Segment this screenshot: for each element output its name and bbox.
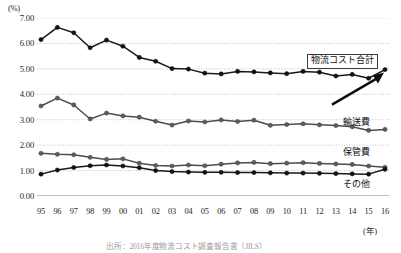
- data-point: [88, 155, 92, 159]
- data-point: [170, 123, 174, 127]
- data-point: [350, 172, 354, 176]
- data-point: [383, 68, 387, 72]
- y-tick-label: 7.00: [2, 13, 34, 23]
- data-point: [235, 171, 239, 175]
- data-point: [203, 170, 207, 174]
- data-point: [154, 163, 158, 167]
- data-point: [55, 152, 59, 156]
- data-point: [285, 122, 289, 126]
- x-tick-label: 10: [283, 207, 291, 216]
- data-point: [170, 169, 174, 173]
- data-point: [104, 157, 108, 161]
- data-point: [72, 165, 76, 169]
- x-tick-label: 03: [168, 207, 176, 216]
- x-tick-label: 07: [234, 207, 242, 216]
- data-point: [317, 70, 321, 74]
- y-tick-label: 1.00: [2, 166, 34, 176]
- x-tick-label: 06: [217, 207, 225, 216]
- x-tick-label: 02: [152, 207, 160, 216]
- data-point: [383, 127, 387, 131]
- data-point: [367, 164, 371, 168]
- data-point: [334, 123, 338, 127]
- data-point: [383, 167, 387, 171]
- x-tick-label: 00: [119, 207, 127, 216]
- x-tick-label: 96: [53, 207, 61, 216]
- data-point: [317, 161, 321, 165]
- data-point: [186, 67, 190, 71]
- data-point: [121, 164, 125, 168]
- y-tick-label: 2.00: [2, 140, 34, 150]
- x-axis-tick-labels: 9596979899000102030405060708091011121314…: [37, 207, 389, 221]
- data-point: [186, 170, 190, 174]
- series-line-0: [41, 27, 385, 78]
- x-tick-label: 16: [381, 207, 389, 216]
- data-point: [268, 71, 272, 75]
- data-point: [137, 55, 141, 59]
- data-point: [285, 72, 289, 76]
- data-point: [219, 162, 223, 166]
- data-point: [252, 118, 256, 122]
- logistics-cost-chart: (%) 0.001.002.003.004.005.006.007.00 959…: [0, 0, 401, 253]
- data-point: [301, 122, 305, 126]
- data-point: [170, 164, 174, 168]
- data-point: [121, 157, 125, 161]
- x-tick-label: 97: [70, 207, 78, 216]
- data-point: [235, 161, 239, 165]
- data-point: [137, 166, 141, 170]
- y-tick-label: 4.00: [2, 89, 34, 99]
- data-point: [334, 162, 338, 166]
- series-label-total: 物流コスト合計: [307, 54, 378, 69]
- data-point: [154, 59, 158, 63]
- data-point: [235, 69, 239, 73]
- data-point: [39, 38, 43, 42]
- x-tick-label: 04: [184, 207, 192, 216]
- data-point: [170, 67, 174, 71]
- data-point: [252, 160, 256, 164]
- x-tick-label: 12: [315, 207, 323, 216]
- plot-area: [37, 18, 389, 196]
- data-point: [104, 38, 108, 42]
- data-point: [219, 170, 223, 174]
- data-point: [104, 163, 108, 167]
- data-point: [137, 115, 141, 119]
- plot-svg: [37, 18, 389, 196]
- data-point: [72, 153, 76, 157]
- data-point: [154, 119, 158, 123]
- x-tick-label: 98: [86, 207, 94, 216]
- x-tick-label: 14: [348, 207, 356, 216]
- data-point: [39, 172, 43, 176]
- data-point: [367, 172, 371, 176]
- data-point: [301, 69, 305, 73]
- data-point: [72, 31, 76, 35]
- data-point: [268, 162, 272, 166]
- data-point: [39, 151, 43, 155]
- data-point: [203, 164, 207, 168]
- x-tick-label: 08: [250, 207, 258, 216]
- x-tick-label: 09: [266, 207, 274, 216]
- data-point: [367, 128, 371, 132]
- x-tick-label: 99: [103, 207, 111, 216]
- source-caption: 出所：2016年度物流コスト調査報告書（JILS）: [106, 240, 267, 251]
- data-point: [334, 172, 338, 176]
- data-point: [252, 70, 256, 74]
- x-tick-label: 11: [299, 207, 307, 216]
- data-point: [301, 161, 305, 165]
- data-point: [268, 123, 272, 127]
- x-tick-label: 05: [201, 207, 209, 216]
- data-point: [55, 25, 59, 29]
- data-point: [268, 171, 272, 175]
- y-axis-unit-label: (%): [8, 3, 20, 13]
- data-point: [88, 117, 92, 121]
- data-point: [88, 46, 92, 50]
- data-point: [203, 120, 207, 124]
- x-tick-label: 13: [332, 207, 340, 216]
- x-tick-label: 15: [365, 207, 373, 216]
- data-point: [203, 71, 207, 75]
- data-point: [285, 161, 289, 165]
- data-point: [235, 119, 239, 123]
- data-point: [104, 111, 108, 115]
- data-point: [39, 104, 43, 108]
- data-point: [317, 123, 321, 127]
- x-tick-label: 95: [37, 207, 45, 216]
- data-point: [317, 171, 321, 175]
